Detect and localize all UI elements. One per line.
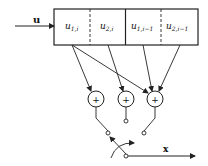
adder-2: + [118,91,134,107]
shift-register: u1,i u2,i u1,i−1 u2,i−1 [54,9,198,45]
cell-u2-i: u2,i [100,21,114,32]
plus-icon: + [92,95,100,105]
output-label: x [163,144,169,154]
contact-2 [124,119,128,123]
plus-icon: + [151,95,159,105]
cell-u1-i: u1,i [65,21,79,32]
adder-3: + [147,91,163,107]
plus-icon: + [122,95,130,105]
adder-1: + [88,91,104,107]
convolutional-encoder-diagram: u u1,i u2,i u1,i−1 u2,i−1 + + + [0,0,208,166]
contact-1 [106,131,110,135]
commutator-arm [110,137,126,154]
cell-u2-i-minus-1: u2,i−1 [166,21,188,32]
switch-pivot [124,154,128,158]
tap-connections [72,45,180,93]
cell-u1-i-minus-1: u1,i−1 [131,21,153,32]
input-label: u [33,14,40,25]
contact-3 [142,131,146,135]
